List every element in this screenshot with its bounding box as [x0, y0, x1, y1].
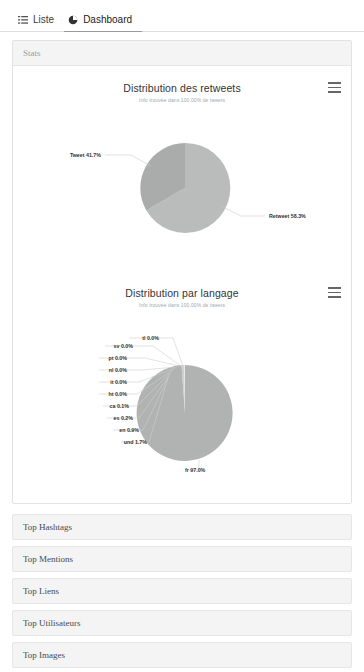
chart1-label-tweet: Tweet 41.7% [70, 152, 101, 158]
stats-panel: Stats Distribution des retweets Info tro… [12, 40, 352, 504]
chart1-slices [140, 143, 230, 233]
accordion-item-top-utilisateurs[interactable]: Top Utilisateurs [12, 610, 352, 636]
accordion-item-top-images[interactable]: Top Images [12, 642, 352, 668]
dashboard-page: Liste Dashboard Stats Distribution des r… [0, 0, 364, 672]
accordion-item-top-mentions[interactable]: Top Mentions [12, 546, 352, 572]
stats-panel-wrapper: Stats Distribution des retweets Info tro… [0, 32, 364, 504]
tab-dashboard[interactable]: Dashboard [64, 9, 142, 31]
chart2-label-und: und 1.7% [124, 439, 148, 445]
chart2-label-sv: sv 0.0% [114, 343, 134, 349]
chart1-title: Distribution des retweets [13, 82, 351, 94]
tab-liste[interactable]: Liste [14, 9, 64, 31]
list-icon [18, 15, 28, 25]
chart2-label-es: es 0.2% [114, 415, 134, 421]
tab-dashboard-label: Dashboard [83, 14, 132, 25]
chart1-svg: Tweet 41.7% Retweet 58.3% [13, 103, 351, 263]
chart-distribution-retweets: Distribution des retweets Info trouvée d… [13, 70, 351, 263]
chart2-title: Distribution par langage [13, 287, 351, 299]
accordion-item-top-liens[interactable]: Top Liens [12, 578, 352, 604]
chart2-label-fr: fr 97.0% [185, 467, 206, 473]
chart2-plot: tl 0.0% sv 0.0% pt 0.0% nl 0.0% it 0.0% … [13, 308, 351, 493]
chart2-label-ht: ht 0.0% [108, 391, 127, 397]
chart2-label-it: it 0.0% [110, 379, 127, 385]
pie-chart-icon [68, 15, 78, 25]
tab-liste-label: Liste [33, 14, 54, 25]
chart2-label-nl: nl 0.0% [109, 367, 128, 373]
chart2-label-en: en 0.9% [119, 427, 139, 433]
chart2-label-pt: pt 0.0% [108, 355, 127, 361]
leader-retweet [221, 206, 265, 216]
leader-tweet [105, 155, 151, 166]
hamburger-menu-icon-2[interactable] [328, 287, 341, 298]
hamburger-menu-icon[interactable] [328, 82, 341, 93]
accordion-item-top-hashtags[interactable]: Top Hashtags [12, 514, 352, 540]
chart2-label-tl: tl 0.0% [142, 335, 159, 341]
chart1-plot: Tweet 41.7% Retweet 58.3% [13, 103, 351, 263]
stats-panel-title: Stats [13, 41, 351, 66]
chart1-label-retweet: Retweet 58.3% [269, 213, 306, 219]
stats-panel-body: Distribution des retweets Info trouvée d… [13, 66, 351, 503]
tab-bar: Liste Dashboard [0, 0, 364, 32]
chart-distribution-langage: Distribution par langage Info trouvée da… [13, 263, 351, 493]
chart2-label-ca: ca 0.1% [110, 403, 130, 409]
top-lists-accordion: Top Hashtags Top Mentions Top Liens Top … [0, 504, 364, 672]
chart2-svg: tl 0.0% sv 0.0% pt 0.0% nl 0.0% it 0.0% … [13, 308, 351, 493]
